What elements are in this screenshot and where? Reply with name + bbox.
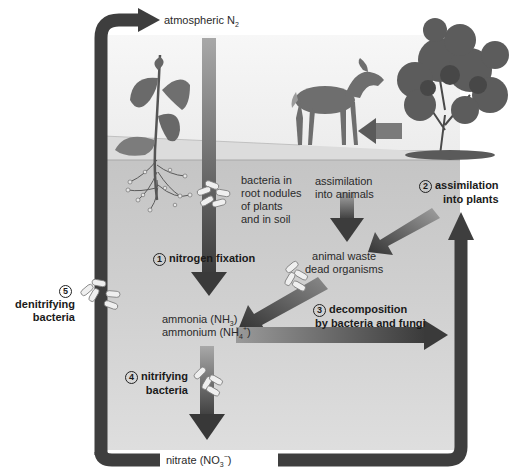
atmospheric-n2-label: atmospheric N2	[164, 14, 239, 27]
ammonia-ammonium-label: ammonia (NH3) ammonium (NH4+)	[162, 313, 251, 339]
step-number-5: 5	[59, 285, 72, 298]
bacteria-nodules-label: bacteria in root nodules of plants and i…	[241, 174, 302, 226]
process-3-decomposition: 3decomposition by bacteria and fungi	[313, 303, 426, 330]
step-number-1: 1	[153, 253, 166, 266]
step-number-3: 3	[313, 304, 326, 317]
step-number-2: 2	[419, 180, 432, 193]
animal-waste-label: animal waste dead organisms	[305, 250, 383, 276]
assimilation-animals-label: assimilation into animals	[315, 175, 374, 201]
process-4-nitrifying: 4nitrifying bacteria	[118, 370, 188, 397]
process-2-assimilation-plants: 2assimilation into plants	[419, 179, 499, 206]
nitrate-label: nitrate (NO3−)	[166, 454, 231, 467]
cycle-arrowhead-top	[138, 8, 160, 32]
process-5-denitrifying: 5denitrifying bacteria	[5, 284, 75, 324]
nitrogen-fixation-shaft	[202, 38, 216, 274]
step-number-4: 4	[125, 371, 138, 384]
process-1-nitrogen-fixation: 1nitrogen fixation	[153, 252, 255, 266]
cycle-arrow-bottom-right	[101, 452, 160, 460]
nitrogen-cycle-diagram	[0, 0, 511, 470]
